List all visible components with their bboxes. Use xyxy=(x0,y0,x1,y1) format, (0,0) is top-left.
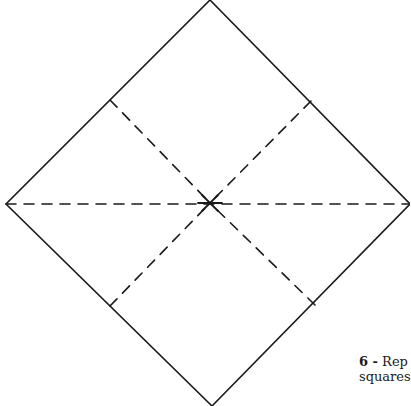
step-text-line2: squares xyxy=(359,369,411,384)
step-caption: 6 - Rep squares xyxy=(359,354,411,384)
diagonal-crease-lower-right xyxy=(210,203,315,305)
step-number: 6 - xyxy=(359,354,378,369)
center-cross-mark xyxy=(198,195,222,211)
diagonal-crease-lower-left xyxy=(110,203,210,306)
diagonal-crease-upper-right xyxy=(210,101,311,203)
step-text-line1: Rep xyxy=(382,354,408,369)
diagonal-crease-upper-left xyxy=(110,100,210,203)
